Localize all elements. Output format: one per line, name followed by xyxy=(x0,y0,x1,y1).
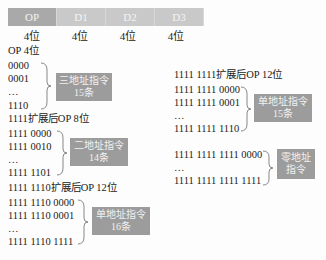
opcode: … xyxy=(8,223,19,235)
category-count: 16条 xyxy=(92,221,150,233)
category-count: 15条 xyxy=(56,87,112,99)
opcode: 0001 xyxy=(8,73,29,85)
group-title: 1111 1110扩展后OP 12位 xyxy=(8,182,117,194)
opcode: 1111 1101 xyxy=(8,167,51,179)
opcode: … xyxy=(8,86,19,98)
brace-icon xyxy=(56,130,68,180)
opcode: 1111 1110 0000 xyxy=(8,197,74,209)
field-op: OP xyxy=(8,8,57,26)
bits-d1: 4位 xyxy=(56,27,104,43)
group-title: 1111扩展后OP 8位 xyxy=(8,113,89,125)
field-d3: D3 xyxy=(155,8,204,26)
category-label: 单地址指令 15条 xyxy=(254,94,312,122)
brace-icon xyxy=(77,199,89,249)
opcode: 1111 1110 1111 xyxy=(8,236,73,248)
instruction-format-header: OP D1 D2 D3 xyxy=(8,8,204,26)
group-title: 1111 1111扩展后OP 12位 xyxy=(174,69,282,81)
brace-icon xyxy=(240,86,252,136)
category-count: 指令 xyxy=(277,164,315,176)
category-count: 14条 xyxy=(70,152,128,164)
opcode: 0000 xyxy=(8,60,29,72)
brace-icon xyxy=(262,150,274,190)
category-label: 单地址指令 16条 xyxy=(92,207,150,235)
group-title: OP 4位 xyxy=(8,45,39,57)
brace-icon xyxy=(40,62,52,114)
opcode: 1111 0010 xyxy=(8,141,51,153)
opcode: … xyxy=(174,110,185,122)
category-name: 单地址指令 xyxy=(254,96,312,108)
opcode: 1110 xyxy=(8,100,28,112)
category-label: 三地址指令 15条 xyxy=(56,73,112,101)
opcode: 1111 1110 0001 xyxy=(8,210,74,222)
opcode: 1111 1111 0001 xyxy=(174,97,240,109)
bits-d2: 4位 xyxy=(104,27,152,43)
category-name: 二地址指令 xyxy=(70,140,128,152)
opcode: 1111 0000 xyxy=(8,128,51,140)
opcode: 1111 1111 1111 1111 xyxy=(174,175,261,187)
opcode: … xyxy=(8,154,19,166)
category-name: 三地址指令 xyxy=(56,75,112,87)
field-d2: D2 xyxy=(106,8,155,26)
category-name: 零地址 xyxy=(277,152,315,164)
bits-d3: 4位 xyxy=(152,27,200,43)
opcode: … xyxy=(174,162,185,174)
category-label: 零地址 指令 xyxy=(277,149,315,179)
category-label: 二地址指令 14条 xyxy=(70,138,128,166)
opcode: 1111 1111 1111 0000 xyxy=(174,149,262,161)
category-name: 单地址指令 xyxy=(92,209,150,221)
opcode: 1111 1111 1110 xyxy=(174,123,239,135)
field-bit-widths: 4位 4位 4位 4位 xyxy=(8,27,200,43)
opcode: 1111 1111 0000 xyxy=(174,84,240,96)
category-count: 15条 xyxy=(254,108,312,120)
bits-op: 4位 xyxy=(8,27,56,43)
field-d1: D1 xyxy=(57,8,106,26)
